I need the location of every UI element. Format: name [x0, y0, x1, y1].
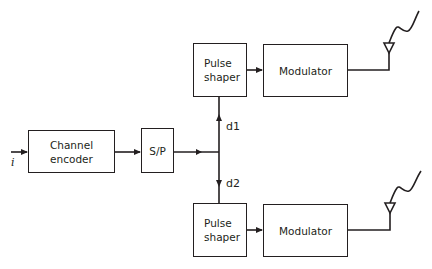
- pulse-shaper-bottom-line1: Pulse: [204, 217, 232, 229]
- modulator-bottom-block: Modulator: [263, 204, 348, 257]
- channel-encoder-line2: encoder: [50, 153, 93, 165]
- pulse-shaper-bottom-block: Pulse shaper: [193, 203, 247, 257]
- pulse-shaper-top-block: Pulse shaper: [193, 43, 247, 97]
- modulator-top-label: Modulator: [279, 64, 332, 78]
- modulator-top-output: [348, 53, 389, 70]
- radio-wave-icon: [389, 11, 419, 43]
- channel-encoder-block: Channel encoder: [28, 130, 115, 173]
- sp-label: S/P: [149, 144, 166, 158]
- pulse-shaper-top-line2: shaper: [204, 71, 240, 83]
- modulator-bottom-label: Modulator: [279, 224, 332, 238]
- radio-wave-icon: [390, 171, 421, 203]
- branch-label-d2: d2: [226, 178, 240, 190]
- pulse-shaper-top-line1: Pulse: [204, 57, 232, 69]
- modulator-bottom-output: [348, 213, 390, 230]
- pulse-shaper-bottom-line2: shaper: [204, 231, 240, 243]
- antenna-icon: [384, 43, 394, 53]
- antenna-icon: [385, 203, 395, 213]
- branch-label-d1: d1: [226, 121, 240, 133]
- sp-block: S/P: [141, 128, 174, 173]
- input-label: i: [11, 157, 15, 169]
- modulator-top-block: Modulator: [263, 44, 348, 97]
- channel-encoder-line1: Channel: [50, 139, 93, 151]
